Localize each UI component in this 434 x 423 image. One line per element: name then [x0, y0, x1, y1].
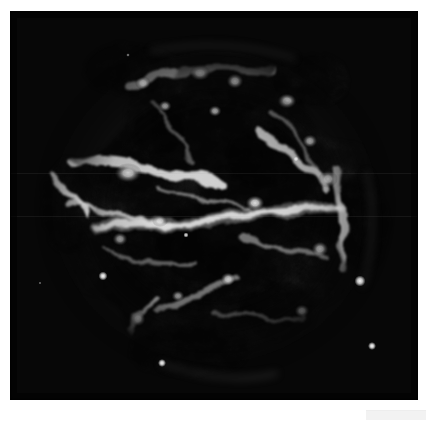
knot-center-diag: [171, 290, 185, 302]
supernova-remnant-image: [10, 11, 418, 400]
knot-north-center: [158, 100, 172, 112]
knot-se-lower: [294, 304, 310, 318]
page-root: [0, 0, 434, 423]
scan-line-upper: [10, 173, 418, 174]
point-source-far-se: [368, 342, 376, 350]
knot-south-center: [220, 272, 236, 286]
knot-east-mid: [318, 170, 338, 188]
point-source-center: [183, 232, 188, 237]
astronomical-image-panel: [10, 11, 418, 400]
knot-nne: [208, 105, 222, 117]
knot-southwest-tip: [130, 311, 146, 327]
knot-north-1: [189, 65, 211, 81]
knot-northwest: [135, 76, 151, 90]
point-source-nw-faint: [126, 53, 130, 57]
remnant-body: [10, 11, 418, 400]
knot-sw-shell: [112, 232, 128, 246]
bottom-right-margin-mark: [366, 410, 426, 420]
knot-north-2: [226, 73, 244, 89]
scan-line-mid: [10, 216, 418, 217]
knot-se-shell: [311, 241, 329, 257]
knot-east-upper: [302, 134, 318, 148]
knot-northeast: [277, 93, 297, 109]
knot-center-bright: [245, 195, 265, 211]
point-source-w-faint: [38, 281, 41, 284]
point-source-sw: [99, 272, 108, 281]
point-source-ne: [294, 157, 299, 162]
